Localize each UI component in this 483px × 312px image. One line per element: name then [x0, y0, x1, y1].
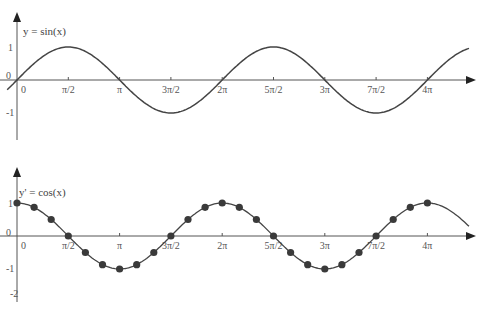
cos-marker-dot: [31, 204, 38, 211]
cos-marker-dot: [424, 199, 431, 206]
bottom-xtick-label: 4π: [422, 240, 432, 251]
bottom-xtick-label: 3π: [320, 240, 330, 251]
cos-marker-dot: [48, 216, 55, 223]
cos-marker-dot: [150, 249, 157, 256]
cos-marker-dot: [304, 261, 311, 268]
cos-marker-dot: [321, 265, 328, 272]
top-xtick-label: π: [117, 84, 122, 95]
top-ytick-0: 0: [6, 70, 11, 81]
bottom-xtick-label: 0: [21, 240, 26, 251]
bottom-xtick-label: π: [117, 240, 122, 251]
top-ytick-neg1: -1: [6, 107, 14, 118]
bottom-xtick-label: π/2: [62, 240, 75, 251]
bottom-ytick-neg1: -1: [6, 263, 14, 274]
cos-marker-dot: [373, 232, 380, 239]
cos-marker-dot: [13, 199, 20, 206]
top-x-arrow-icon: [466, 76, 476, 84]
cos-marker-dot: [202, 204, 209, 211]
cos-marker-dot: [99, 261, 106, 268]
cos-marker-dot: [116, 265, 123, 272]
bottom-ytick-neg2: -2: [10, 288, 18, 299]
top-xtick-label: π/2: [62, 84, 75, 95]
cos-marker-dot: [270, 232, 277, 239]
top-xtick-label: 4π: [422, 84, 432, 95]
top-xtick-label: 0: [21, 84, 26, 95]
bottom-xtick-label: 2π: [217, 240, 227, 251]
top-title: y = sin(x): [23, 25, 66, 38]
bottom-plot: y' = cos(x) 0π/2π3π/22π5π/23π7π/24π 1 0 …: [0, 167, 476, 302]
top-xtick-label: 5π/2: [265, 84, 283, 95]
top-xtick-label: 3π/2: [162, 84, 180, 95]
top-xtick-label: 3π: [320, 84, 330, 95]
cos-marker-dot: [287, 249, 294, 256]
top-xtick-label: 2π: [217, 84, 227, 95]
cos-marker-dot: [390, 216, 397, 223]
bottom-ytick-0: 0: [6, 227, 11, 238]
bottom-ytick-1: 1: [8, 198, 13, 209]
cos-marker-dot: [253, 216, 260, 223]
cos-marker-dot: [167, 232, 174, 239]
cos-marker-dot: [236, 204, 243, 211]
top-plot: y = sin(x) 0π/2π3π/22π5π/23π7π/24π 1 0 -…: [0, 12, 476, 140]
bottom-title: y' = cos(x): [19, 186, 66, 199]
top-xtick-label: 7π/2: [367, 84, 385, 95]
cos-marker-dot: [219, 199, 226, 206]
cos-marker-dot: [355, 249, 362, 256]
bottom-x-arrow-icon: [466, 232, 476, 240]
cos-marker-dot: [184, 216, 191, 223]
cos-marker-dot: [82, 249, 89, 256]
sin-cos-chart: y = sin(x) 0π/2π3π/22π5π/23π7π/24π 1 0 -…: [0, 0, 483, 312]
cos-marker-dot: [407, 204, 414, 211]
cos-marker-dot: [338, 261, 345, 268]
cos-marker-dot: [133, 261, 140, 268]
cos-marker-dot: [65, 232, 72, 239]
bottom-y-arrow-icon: [13, 167, 21, 177]
top-ytick-1: 1: [8, 42, 13, 53]
top-y-arrow-icon: [13, 12, 21, 22]
